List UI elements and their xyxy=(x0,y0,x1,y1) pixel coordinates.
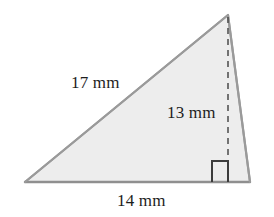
label-height-length: 13 mm xyxy=(167,104,216,121)
label-base-length: 14 mm xyxy=(117,192,166,209)
label-slant-side-length: 17 mm xyxy=(71,74,120,91)
triangle-diagram-svg xyxy=(0,0,274,217)
geometry-figure: 17 mm 13 mm 14 mm xyxy=(0,0,274,217)
triangle-shape xyxy=(25,15,250,182)
